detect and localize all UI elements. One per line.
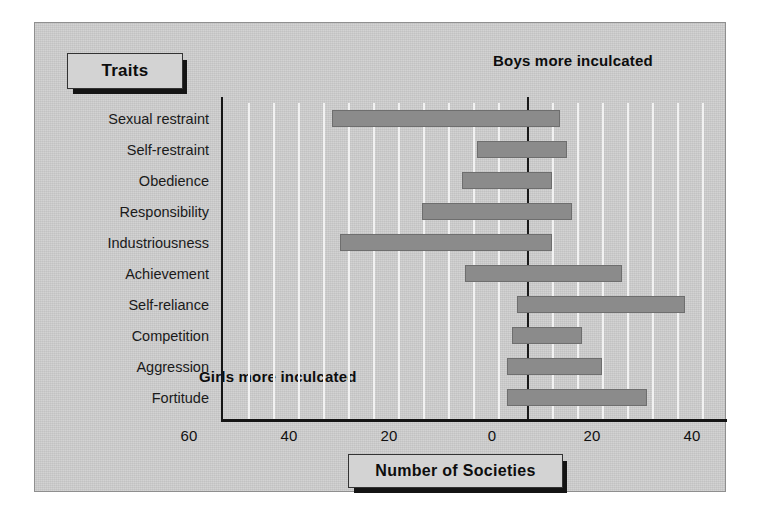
- bar-achievement: [465, 265, 622, 282]
- y-label-competition: Competition: [132, 329, 209, 344]
- y-label-self-reliance: Self-reliance: [128, 298, 209, 313]
- bar-row-aggression: [507, 356, 602, 386]
- bar-self-restraint: [477, 141, 567, 158]
- x-axis-line: [221, 419, 727, 422]
- y-label-aggression: Aggression: [136, 360, 209, 375]
- gridline: [323, 103, 325, 419]
- gridline: [273, 103, 275, 419]
- bar-row-fortitude: [507, 387, 647, 417]
- x-tick-label-60-left: 60: [180, 427, 197, 444]
- xaxis-box-label: Number of Societies: [375, 462, 535, 480]
- bar-sexual-restraint: [332, 110, 560, 127]
- x-tick-label-40-right: 40: [683, 427, 700, 444]
- xaxis-box-title: Number of Societies: [348, 454, 563, 488]
- y-label-self-restraint: Self-restraint: [127, 143, 209, 158]
- y-label-responsibility: Responsibility: [120, 205, 209, 220]
- gridline: [627, 103, 629, 419]
- y-label-achievement: Achievement: [125, 267, 209, 282]
- y-label-obedience: Obedience: [139, 174, 209, 189]
- y-label-sexual-restraint: Sexual restraint: [108, 112, 209, 127]
- bar-self-reliance: [517, 296, 685, 313]
- bar-fortitude: [507, 389, 647, 406]
- bar-row-industriousness: [340, 232, 552, 262]
- gridline: [702, 103, 704, 419]
- bar-aggression: [507, 358, 602, 375]
- bar-industriousness: [340, 234, 552, 251]
- gridline: [677, 103, 679, 419]
- bar-row-sexual-restraint: [332, 108, 560, 138]
- x-tick-label-20-right: 20: [583, 427, 600, 444]
- y-axis-labels: Sexual restraint Self-restraint Obedienc…: [35, 103, 215, 419]
- y-label-fortitude: Fortitude: [152, 391, 209, 406]
- x-tick-label-20-left: 20: [380, 427, 397, 444]
- x-tick-label-40-left: 40: [280, 427, 297, 444]
- bar-row-competition: [512, 325, 582, 355]
- annotation-boys-more-inculcated: Boys more inculcated: [493, 52, 653, 69]
- bar-row-obedience: [462, 170, 552, 200]
- chart-page: Traits Boys more inculcated Girls more i…: [0, 0, 760, 524]
- gridline: [602, 103, 604, 419]
- bar-responsibility: [422, 203, 572, 220]
- x-tick-label-0: 0: [488, 427, 497, 444]
- bar-row-responsibility: [422, 201, 572, 231]
- y-label-industriousness: Industriousness: [107, 236, 209, 251]
- bar-row-self-reliance: [517, 294, 685, 324]
- traits-box-title: Traits: [67, 53, 183, 89]
- gridline: [248, 103, 250, 419]
- gridline: [298, 103, 300, 419]
- bar-row-self-restraint: [477, 139, 567, 169]
- traits-box-label: Traits: [101, 61, 148, 81]
- bar-competition: [512, 327, 582, 344]
- gridline: [652, 103, 654, 419]
- plot-area: [223, 103, 727, 419]
- bar-obedience: [462, 172, 552, 189]
- chart-card: Traits Boys more inculcated Girls more i…: [34, 22, 726, 492]
- bar-row-achievement: [465, 263, 622, 293]
